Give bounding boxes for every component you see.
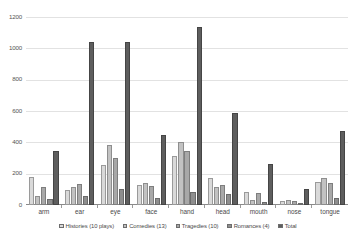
bar-group-tongue <box>312 17 348 205</box>
x-tick-label: tongue <box>312 208 348 220</box>
bar-group-ear <box>62 17 98 205</box>
legend-swatch-icon <box>176 224 180 228</box>
bar[interactable] <box>83 196 88 205</box>
bar[interactable] <box>41 187 46 205</box>
chart-legend: Histories (10 plays)Comedies (13)Tragedi… <box>0 223 356 229</box>
bar[interactable] <box>280 201 285 205</box>
bar[interactable] <box>321 178 326 205</box>
bar-group-arm <box>26 17 62 205</box>
bar[interactable] <box>304 189 309 205</box>
bar[interactable] <box>137 185 142 205</box>
legend-label: Total <box>285 223 297 229</box>
bar[interactable] <box>53 151 58 205</box>
bar[interactable] <box>47 199 52 205</box>
legend-swatch-icon <box>227 224 231 228</box>
y-tick-label: 600 <box>0 108 22 114</box>
bar-group-hand <box>169 17 205 205</box>
legend-label: Histories (10 plays) <box>66 223 114 229</box>
bar[interactable] <box>178 142 183 205</box>
y-tick-label: 800 <box>0 76 22 82</box>
bar-group-face <box>133 17 169 205</box>
bar[interactable] <box>220 185 225 205</box>
x-tick-label: head <box>205 208 241 220</box>
legend-label: Comedies (13) <box>129 223 166 229</box>
legend-swatch-icon <box>59 224 63 228</box>
bar[interactable] <box>190 192 195 205</box>
x-tick-label: mouth <box>241 208 277 220</box>
bar[interactable] <box>256 193 261 205</box>
bar[interactable] <box>161 135 166 206</box>
bar[interactable] <box>172 156 177 205</box>
bar-chart: 020040060080010001200 armeareyefacehandh… <box>0 0 356 240</box>
bar-group-mouth <box>241 17 277 205</box>
bar-group-head <box>205 17 241 205</box>
bar[interactable] <box>149 186 154 205</box>
x-tick-label: face <box>133 208 169 220</box>
bar[interactable] <box>244 192 249 205</box>
y-tick-label: 1000 <box>0 45 22 51</box>
bar-group-nose <box>276 17 312 205</box>
bar[interactable] <box>71 187 76 205</box>
legend-label: Tragedies (10) <box>182 223 219 229</box>
bar[interactable] <box>214 187 219 205</box>
legend-swatch-icon <box>278 224 282 228</box>
bar[interactable] <box>29 177 34 205</box>
bar[interactable] <box>315 182 320 206</box>
bar[interactable] <box>101 165 106 205</box>
legend-swatch-icon <box>123 224 127 228</box>
legend-item[interactable]: Romances (4) <box>227 223 269 229</box>
bar[interactable] <box>328 183 333 205</box>
bar[interactable] <box>262 202 267 205</box>
bar[interactable] <box>340 131 345 205</box>
bar[interactable] <box>208 178 213 205</box>
bar[interactable] <box>119 189 124 205</box>
x-tick-label: hand <box>169 208 205 220</box>
legend-item[interactable]: Total <box>278 223 296 229</box>
bar-group-eye <box>98 17 134 205</box>
x-tick-label: eye <box>98 208 134 220</box>
bar[interactable] <box>65 190 70 205</box>
bar[interactable] <box>286 200 291 205</box>
bar[interactable] <box>125 42 130 205</box>
legend-item[interactable]: Comedies (13) <box>123 223 167 229</box>
x-axis-labels: armeareyefacehandheadmouthnosetongue <box>26 208 348 220</box>
bar[interactable] <box>113 158 118 205</box>
legend-item[interactable]: Histories (10 plays) <box>59 223 114 229</box>
bar[interactable] <box>232 113 237 205</box>
bar[interactable] <box>292 201 297 205</box>
bar[interactable] <box>334 198 339 205</box>
bar[interactable] <box>197 27 202 205</box>
bar[interactable] <box>298 203 303 205</box>
x-tick-label: nose <box>276 208 312 220</box>
bar[interactable] <box>155 198 160 205</box>
legend-label: Romances (4) <box>234 223 270 229</box>
y-tick-label: 1200 <box>0 14 22 20</box>
bar[interactable] <box>250 200 255 205</box>
x-tick-label: arm <box>26 208 62 220</box>
bar[interactable] <box>143 183 148 205</box>
bar[interactable] <box>184 151 189 205</box>
bar[interactable] <box>89 42 94 205</box>
bar[interactable] <box>77 184 82 205</box>
bar[interactable] <box>35 196 40 205</box>
y-tick-label: 200 <box>0 170 22 176</box>
y-tick-label: 0 <box>0 202 22 208</box>
bar[interactable] <box>268 164 273 205</box>
bar-groups <box>26 17 348 205</box>
x-tick-label: ear <box>62 208 98 220</box>
bar[interactable] <box>107 145 112 205</box>
y-tick-label: 400 <box>0 139 22 145</box>
bar[interactable] <box>226 194 231 205</box>
legend-item[interactable]: Tragedies (10) <box>176 223 219 229</box>
